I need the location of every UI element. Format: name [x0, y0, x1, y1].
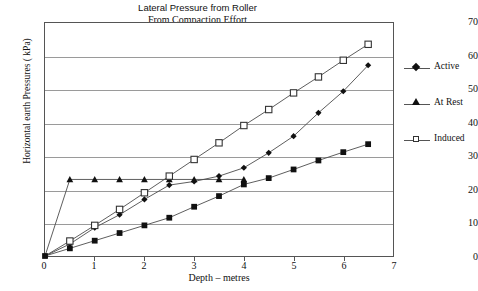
x-tick-label-6: 6	[333, 260, 355, 271]
x-tick-label-0: 0	[33, 260, 55, 271]
data-point	[340, 57, 346, 63]
data-point	[266, 175, 272, 181]
data-point	[141, 190, 147, 196]
x-tick-label-3: 3	[183, 260, 205, 271]
series-series-4	[45, 141, 371, 256]
data-point	[141, 196, 147, 202]
chart-title: Lateral Pressure from Roller	[0, 2, 395, 14]
data-point	[316, 158, 322, 164]
y-tick-label-20: 20	[438, 184, 478, 195]
y-tick-label-60: 60	[438, 50, 478, 61]
data-point	[365, 141, 371, 147]
data-point	[266, 150, 272, 156]
x-tick-mark-6	[344, 257, 345, 261]
data-point	[241, 165, 247, 171]
legend-item-active[interactable]: Active	[404, 60, 478, 96]
data-point	[116, 206, 122, 212]
data-point	[290, 90, 296, 96]
data-point	[365, 41, 371, 47]
series-induced	[45, 41, 371, 256]
legend-open-square-icon	[413, 136, 419, 142]
series-at-rest	[45, 176, 247, 256]
data-point	[216, 140, 222, 146]
legend-label: At Rest	[434, 97, 463, 107]
data-point	[166, 215, 172, 221]
data-point	[67, 245, 73, 251]
x-tick-label-1: 1	[83, 260, 105, 271]
data-point	[241, 122, 247, 128]
plot-area	[44, 22, 394, 257]
y-axis-label: Horizontal earth Pressures ( kPa)	[22, 6, 32, 196]
data-point	[166, 173, 172, 179]
data-point	[241, 182, 247, 188]
x-tick-mark-1	[94, 257, 95, 261]
legend-label: Induced	[434, 133, 465, 143]
x-tick-label-5: 5	[283, 260, 305, 271]
legend-label: Active	[434, 61, 459, 71]
y-tick-label-10: 10	[438, 217, 478, 228]
x-tick-mark-3	[194, 257, 195, 261]
y-tick-label-0: 0	[438, 251, 478, 262]
x-tick-mark-4	[244, 257, 245, 261]
x-tick-mark-5	[294, 257, 295, 261]
data-point	[117, 230, 123, 236]
data-point	[266, 106, 272, 112]
data-point	[315, 74, 321, 80]
data-point	[216, 193, 222, 199]
x-tick-mark-2	[144, 257, 145, 261]
chart-figure: Lateral Pressure from Roller From Compac…	[0, 0, 478, 291]
data-point	[191, 204, 197, 210]
chart-legend: ActiveAt RestInduced	[404, 60, 478, 168]
legend-diamond-icon	[412, 63, 420, 71]
data-point	[67, 238, 73, 244]
data-point	[340, 149, 346, 155]
legend-triangle-icon	[412, 98, 420, 105]
x-tick-label-7: 7	[383, 260, 405, 271]
x-tick-label-2: 2	[133, 260, 155, 271]
origin-marker	[42, 253, 48, 259]
y-tick-label-70: 70	[438, 16, 478, 27]
data-point	[92, 222, 98, 228]
data-point	[92, 238, 98, 244]
series-layer	[45, 23, 393, 256]
x-tick-label-4: 4	[233, 260, 255, 271]
legend-item-at-rest[interactable]: At Rest	[404, 96, 478, 132]
data-point	[166, 182, 172, 188]
data-point	[142, 223, 148, 229]
data-point	[191, 156, 197, 162]
data-point	[291, 167, 297, 173]
x-axis-label: Depth – metres	[44, 272, 394, 283]
legend-item-induced[interactable]: Induced	[404, 132, 478, 168]
